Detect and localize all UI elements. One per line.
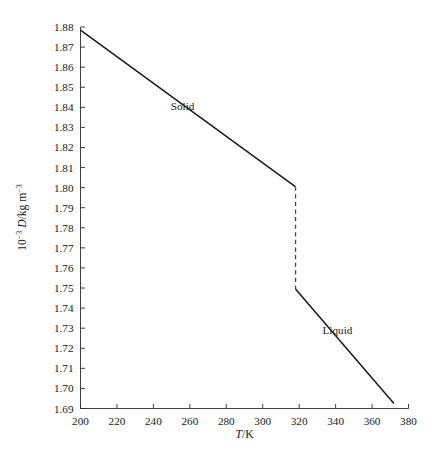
y-axis-title: 10−3 D/kg m−3: [15, 184, 29, 251]
x-tick-label: 380: [400, 415, 417, 427]
y-tick-label: 1.78: [54, 222, 74, 234]
curve-label-liquid: Liquid: [323, 324, 353, 336]
x-tick-label: 220: [109, 415, 126, 427]
y-tick-label: 1.75: [54, 282, 74, 294]
y-tick-label: 1.86: [54, 61, 74, 73]
x-tick-label: 300: [254, 415, 271, 427]
data-series-group: [81, 30, 394, 403]
x-tick-label: 200: [72, 415, 89, 427]
y-tick-label: 1.87: [54, 41, 74, 53]
x-tick-label: 360: [364, 415, 381, 427]
y-tick-label: 1.74: [54, 302, 74, 314]
x-tick-label: 280: [218, 415, 235, 427]
y-tick-label: 1.80: [54, 182, 74, 194]
series-liquid-line: [296, 289, 394, 403]
y-tick-label: 1.79: [54, 202, 74, 214]
chart-canvas: 1.691.701.711.721.731.741.751.761.771.78…: [0, 0, 433, 466]
curve-label-solid: Solid: [171, 100, 195, 112]
y-tick-label: 1.81: [54, 162, 74, 174]
y-tick-label: 1.73: [54, 322, 74, 334]
x-tick-label: 240: [145, 415, 162, 427]
x-tick-label: 320: [291, 415, 308, 427]
y-tick-label: 1.83: [54, 121, 74, 133]
y-tick-label: 1.71: [54, 362, 74, 374]
y-tick-label: 1.82: [54, 141, 74, 153]
axis-spines: [81, 27, 409, 409]
x-axis-tick-labels: 200220240260280300320340360380: [72, 415, 417, 427]
y-tick-label: 1.85: [54, 81, 74, 93]
x-axis-title: T/K: [235, 428, 254, 441]
y-axis-tick-labels: 1.691.701.711.721.731.741.751.761.771.78…: [54, 21, 74, 415]
y-tick-label: 1.84: [54, 101, 74, 113]
x-tick-label: 340: [327, 415, 344, 427]
y-tick-label: 1.77: [54, 242, 74, 254]
y-tick-label: 1.69: [54, 403, 74, 415]
y-tick-label: 1.88: [54, 21, 74, 33]
density-temperature-chart: 1.691.701.711.721.731.741.751.761.771.78…: [0, 0, 433, 466]
y-tick-label: 1.70: [54, 382, 74, 394]
x-tick-label: 260: [181, 415, 198, 427]
y-tick-label: 1.72: [54, 342, 74, 354]
y-tick-label: 1.76: [54, 262, 74, 274]
y-axis-ticks: [81, 27, 86, 409]
x-axis-ticks: [81, 404, 409, 409]
series-annotations: SolidLiquid: [171, 100, 353, 335]
